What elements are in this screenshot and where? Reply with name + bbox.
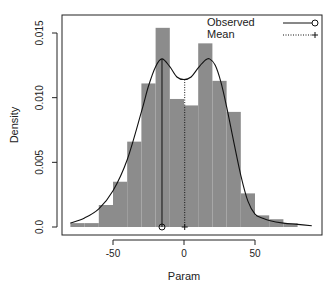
histogram-bar xyxy=(212,81,226,227)
y-tick-label: 0.015 xyxy=(34,20,45,45)
histogram-bar xyxy=(241,193,255,227)
histogram-bar xyxy=(156,28,170,227)
histogram-bar xyxy=(70,223,84,227)
histogram-bar xyxy=(113,182,127,227)
x-tick-label: 0 xyxy=(181,248,187,259)
histogram-bar xyxy=(198,43,212,227)
x-tick-label: -50 xyxy=(106,248,121,259)
y-axis-label: Density xyxy=(8,106,20,143)
x-axis: -50050 xyxy=(106,240,261,259)
histogram-bar xyxy=(184,105,198,227)
y-tick-label: 0.005 xyxy=(34,149,45,174)
histogram-chart: Observed Mean 0.00.0050.0100.015 -50050 … xyxy=(0,0,335,293)
y-tick-label: 0.0 xyxy=(34,220,45,234)
histogram-bar xyxy=(170,99,184,227)
histogram-bar xyxy=(255,215,269,227)
histogram-bar xyxy=(85,223,99,227)
y-axis: 0.00.0050.0100.015 xyxy=(34,20,57,234)
legend-observed-circle-icon xyxy=(312,20,318,26)
x-tick-label: 50 xyxy=(249,248,261,259)
histogram-bar xyxy=(99,205,113,227)
legend-observed-label: Observed xyxy=(207,16,255,28)
y-tick-label: 0.010 xyxy=(34,85,45,110)
histogram-bar xyxy=(227,112,241,227)
histogram-bars xyxy=(70,28,297,227)
x-axis-label: Param xyxy=(168,270,200,282)
legend-mean-label: Mean xyxy=(207,28,235,40)
